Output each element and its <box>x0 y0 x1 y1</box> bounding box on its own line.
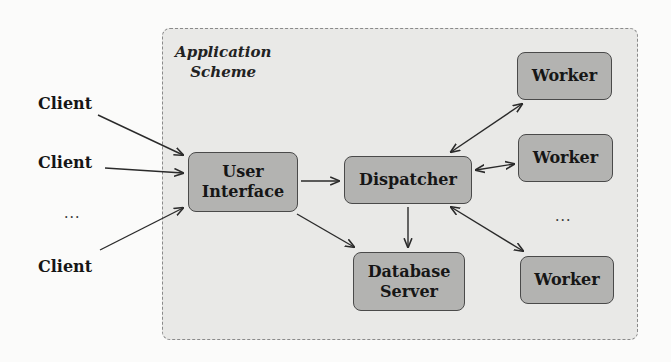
workers-ellipsis: ... <box>555 208 571 224</box>
container-label: Application Scheme <box>175 42 271 82</box>
client-1: Client <box>38 94 92 113</box>
client-3: Client <box>38 257 92 276</box>
worker-node-2: Worker <box>518 134 613 182</box>
container-label-line2: Scheme <box>175 62 271 82</box>
database-server-line1: Database <box>368 262 451 282</box>
database-server-line2: Server <box>368 282 451 302</box>
clients-ellipsis: ... <box>64 205 80 221</box>
worker-node-3: Worker <box>520 256 614 304</box>
worker-node-1: Worker <box>517 52 612 100</box>
dispatcher-node: Dispatcher <box>344 156 472 204</box>
user-interface-node: User Interface <box>188 152 298 212</box>
client-2: Client <box>38 153 92 172</box>
container-label-line1: Application <box>175 42 271 62</box>
database-server-node: Database Server <box>353 252 465 311</box>
user-interface-line2: Interface <box>202 182 284 202</box>
user-interface-line1: User <box>202 162 284 182</box>
